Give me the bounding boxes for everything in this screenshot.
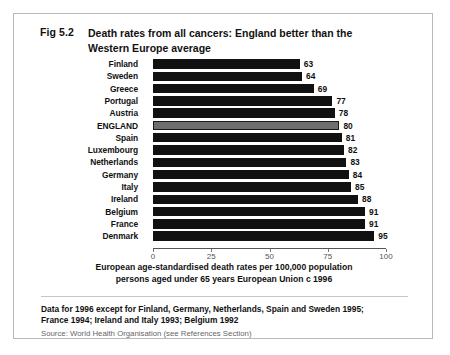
x-axis-tick-label: 100 [379, 252, 392, 261]
bar-category-label: Greece [14, 83, 138, 95]
bar [153, 72, 302, 81]
footnote-line1: Data for 1996 except for Finland, German… [41, 304, 421, 315]
bar-category-label: Italy [14, 181, 138, 193]
bar-value-label: 64 [306, 70, 315, 82]
figure-title: Death rates from all cancers: England be… [88, 26, 388, 55]
bar-row: Belgium91 [14, 206, 434, 218]
bar [153, 108, 335, 117]
bar [153, 182, 351, 191]
x-axis-caption-line2: persons aged under 65 years European Uni… [28, 274, 420, 286]
footnote-line2: France 1994; Ireland and Italy 1993; Bel… [41, 315, 421, 326]
bar-value-label: 69 [318, 83, 327, 95]
bar-value-label: 82 [348, 144, 357, 156]
x-axis-caption: European age-standardised death rates pe… [28, 262, 420, 285]
bar-category-label: Sweden [14, 70, 138, 82]
bar-row: ENGLAND80 [14, 120, 434, 132]
bar [153, 158, 346, 167]
bar [153, 84, 314, 93]
x-axis-tick-label: 50 [265, 252, 274, 261]
bar [153, 133, 342, 142]
bar [153, 145, 344, 154]
bar-category-label: Netherlands [14, 156, 138, 168]
bar [153, 59, 300, 68]
bar-category-label: Ireland [14, 193, 138, 205]
footnote-source: Source: World Health Organisation (see R… [41, 328, 421, 339]
bar-row: Finland63 [14, 58, 434, 70]
x-axis-tick-label: 25 [207, 252, 216, 261]
bar-row: Denmark95 [14, 230, 434, 242]
bar-category-label: ENGLAND [14, 120, 138, 132]
bar [153, 219, 365, 228]
bar-category-label: Portugal [14, 95, 138, 107]
bar-row: Portugal77 [14, 95, 434, 107]
bar-category-label: Belgium [14, 206, 138, 218]
bar-row: Ireland88 [14, 193, 434, 205]
bar [153, 195, 358, 204]
bar-chart-plot-area: Finland63Sweden64Greece69Portugal77Austr… [14, 58, 434, 250]
bar [153, 231, 374, 240]
footnote-divider [41, 296, 408, 297]
figure-title-row: Fig 5.2 Death rates from all cancers: En… [40, 26, 418, 55]
bar-value-label: 88 [362, 193, 371, 205]
bar [153, 207, 365, 216]
bar-value-label: 78 [339, 107, 348, 119]
bar-value-label: 63 [304, 58, 313, 70]
bar [153, 170, 349, 179]
bar-value-label: 85 [355, 181, 364, 193]
bar-value-label: 80 [343, 120, 352, 132]
bar-row: Netherlands83 [14, 156, 434, 168]
bar-row: Italy85 [14, 181, 434, 193]
bar [153, 96, 332, 105]
bar-category-label: Finland [14, 58, 138, 70]
bar-category-label: Austria [14, 107, 138, 119]
bar-value-label: 77 [336, 95, 345, 107]
x-axis-caption-line1: European age-standardised death rates pe… [28, 262, 420, 274]
bar-category-label: Spain [14, 132, 138, 144]
bar-category-label: France [14, 218, 138, 230]
bar-row: Germany84 [14, 169, 434, 181]
bar-row: Sweden64 [14, 70, 434, 82]
figure-number: Fig 5.2 [40, 26, 74, 38]
footnote-block: Data for 1996 except for Finland, German… [41, 304, 421, 339]
bar-row: Luxembourg82 [14, 144, 434, 156]
bar-value-label: 81 [346, 132, 355, 144]
bar-category-label: Germany [14, 169, 138, 181]
bar-category-label: Denmark [14, 230, 138, 242]
bar-value-label: 95 [378, 230, 387, 242]
bar-highlighted [153, 121, 339, 130]
bar-value-label: 83 [350, 156, 359, 168]
bar-value-label: 84 [353, 169, 362, 181]
bar-category-label: Luxembourg [14, 144, 138, 156]
bar-row: Greece69 [14, 83, 434, 95]
bar-value-label: 91 [369, 218, 378, 230]
bar-row: Austria78 [14, 107, 434, 119]
x-axis-tick-label: 0 [151, 252, 155, 261]
x-axis-tick-label: 75 [323, 252, 332, 261]
figure-frame: Fig 5.2 Death rates from all cancers: En… [13, 13, 433, 339]
bar-value-label: 91 [369, 206, 378, 218]
bar-row: Spain81 [14, 132, 434, 144]
bar-row: France91 [14, 218, 434, 230]
